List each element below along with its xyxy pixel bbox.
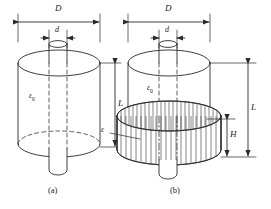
panel-b-material-label-dielectric: ε [101, 126, 104, 136]
panel-a-material-label-air: ε0 [29, 92, 35, 102]
panel-b-dimension-label-d: d [165, 26, 169, 34]
panel-b-material-label-air: ε0 [147, 84, 153, 94]
panel-b-dimension-label-L: L [251, 103, 256, 112]
panel-b-caption: (b) [170, 186, 180, 195]
panel-a-dimension-label-d: d [55, 26, 59, 34]
figure-canvas: D d L ε0 (a) D d L H ε0 ε (b) [0, 0, 271, 209]
epsilon-subscript: 0 [32, 96, 35, 102]
diagram-svg [0, 0, 271, 209]
epsilon-glyph: ε [101, 125, 104, 134]
panel-b-dimension-label-D: D [165, 4, 172, 13]
panel-a-dimension-label-L: L [118, 99, 123, 108]
panel-b-dimension-label-H: H [230, 130, 237, 139]
epsilon-subscript: 0 [150, 88, 153, 94]
panel-a-dimension-label-D: D [55, 4, 62, 13]
panel-a-caption: (a) [48, 186, 57, 195]
